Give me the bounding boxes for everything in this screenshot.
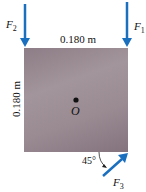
point-o-dot xyxy=(73,97,78,102)
f2-arrow xyxy=(20,4,30,47)
f1-arrow xyxy=(122,2,132,47)
f3-label: F3 xyxy=(113,176,124,191)
height-dimension-label: 0.180 m xyxy=(10,81,22,117)
f2-label: F2 xyxy=(6,18,17,33)
f1-label: F1 xyxy=(134,20,145,35)
width-dimension-label: 0.180 m xyxy=(60,33,96,45)
angle-arc xyxy=(99,152,107,168)
point-o-label: O xyxy=(71,104,80,119)
angle-label: 45° xyxy=(82,155,96,166)
f3-arrow xyxy=(103,153,128,176)
